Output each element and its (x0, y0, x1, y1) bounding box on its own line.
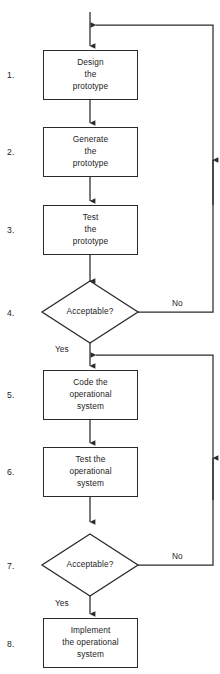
process-node-test-operational-system[interactable]: Test theoperationalsystem (43, 447, 138, 497)
process-node-code-operational-system[interactable]: Code theoperationalsystem (43, 370, 138, 420)
process-node-design-prototype[interactable]: Designtheprototype (43, 50, 138, 100)
step-number-6: 6. (7, 467, 14, 477)
process-node-design-prototype-label: Designtheprototype (70, 57, 112, 92)
step-number-5: 5. (7, 390, 14, 400)
process-node-test-operational-system-label: Test theoperationalsystem (66, 454, 114, 489)
step-number-8: 8. (7, 639, 14, 649)
step-number-4: 4. (7, 308, 14, 318)
process-node-test-prototype[interactable]: Testtheprototype (43, 205, 138, 255)
edge-label-yes-decision-7: Yes (55, 598, 69, 608)
step-number-7: 7. (7, 561, 14, 571)
step-number-1: 1. (7, 70, 14, 80)
process-node-implement-operational-system-label: Implementthe operationalsystem (59, 625, 121, 660)
edge-label-no-decision-4: No (172, 298, 183, 308)
process-node-code-operational-system-label: Code theoperationalsystem (66, 377, 114, 412)
step-number-2: 2. (7, 147, 14, 157)
process-node-implement-operational-system[interactable]: Implementthe operationalsystem (43, 618, 138, 668)
process-node-generate-prototype-label: Generatetheprototype (70, 134, 112, 169)
edge-label-yes-decision-4: Yes (55, 344, 69, 354)
edge-label-no-decision-7: No (172, 551, 183, 561)
step-number-3: 3. (7, 225, 14, 235)
flowchart-diagram: 1. 2. 3. 4. 5. 6. 7. 8. Designtheprototy… (0, 0, 220, 674)
process-node-test-prototype-label: Testtheprototype (70, 212, 112, 247)
process-node-generate-prototype[interactable]: Generatetheprototype (43, 127, 138, 177)
flowchart-connectors (0, 0, 220, 674)
